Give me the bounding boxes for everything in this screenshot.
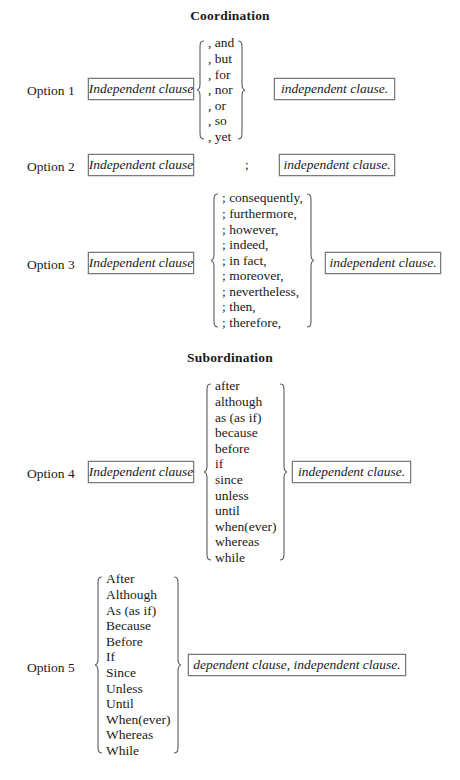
- connector-item: , nor: [208, 82, 234, 98]
- connector-item: Before: [106, 634, 170, 650]
- connector-item: ; moreover,: [222, 268, 303, 284]
- section-heading-coordination: Coordination: [0, 8, 460, 24]
- connector-item: Because: [106, 618, 170, 634]
- option-5-connector-list: After Although As (as if) Because Before…: [103, 571, 173, 758]
- option-4-connector-list: after although as (as if) because before…: [212, 378, 279, 565]
- connector-item: ; furthermore,: [222, 206, 303, 222]
- right-curly-brace-icon: [237, 40, 246, 140]
- left-curly-brace-icon: [210, 193, 219, 328]
- connector-item: Unless: [106, 681, 170, 697]
- option-3-left-clause-box: Independent clause: [88, 252, 194, 274]
- connector-item: ; therefore,: [222, 315, 303, 331]
- connector-item: ; indeed,: [222, 237, 303, 253]
- left-curly-brace-icon: [196, 40, 205, 140]
- connector-item: When(ever): [106, 712, 170, 728]
- connector-item: , or: [208, 98, 234, 114]
- option-3-right-clause-box: independent clause.: [325, 252, 441, 274]
- connector-item: whereas: [215, 534, 276, 550]
- right-curly-brace-icon: [306, 193, 315, 328]
- option-label-4: Option 4: [27, 466, 75, 482]
- option-4-right-clause-box: independent clause.: [292, 461, 411, 483]
- section-heading-subordination: Subordination: [0, 350, 460, 366]
- connector-item: as (as if): [215, 410, 276, 426]
- connector-item: until: [215, 503, 276, 519]
- connector-item: Until: [106, 696, 170, 712]
- connector-item: As (as if): [106, 603, 170, 619]
- connector-item: , but: [208, 51, 234, 67]
- option-4-left-clause-box: Independent clause: [88, 461, 194, 483]
- option-1-connector-list: , and , but , for , nor , or , so , yet: [205, 35, 237, 144]
- option-2-semicolon-connector: ;: [245, 157, 249, 173]
- worksheet-page: { "page": { "title": "Sentence Combining…: [0, 0, 460, 780]
- connector-item: although: [215, 394, 276, 410]
- connector-item: if: [215, 456, 276, 472]
- connector-item: ; nevertheless,: [222, 284, 303, 300]
- option-2-right-clause-box: independent clause.: [279, 154, 395, 176]
- connector-item: If: [106, 649, 170, 665]
- connector-item: because: [215, 425, 276, 441]
- connector-item: ; however,: [222, 222, 303, 238]
- connector-item: ; consequently,: [222, 190, 303, 206]
- option-1-right-clause-box: independent clause.: [274, 78, 395, 100]
- option-1-left-clause-box: Independent clause: [88, 78, 194, 100]
- option-3-connector-brace-group: ; consequently, ; furthermore, ; however…: [210, 193, 315, 328]
- connector-item: , yet: [208, 129, 234, 145]
- connector-item: while: [215, 550, 276, 566]
- connector-item: since: [215, 472, 276, 488]
- option-5-connector-brace-group: After Although As (as if) Because Before…: [94, 576, 182, 754]
- option-1-connector-brace-group: , and , but , for , nor , or , so , yet: [196, 40, 246, 140]
- connector-item: ; then,: [222, 299, 303, 315]
- option-label-5: Option 5: [27, 660, 75, 676]
- connector-item: Whereas: [106, 727, 170, 743]
- connector-item: , and: [208, 35, 234, 51]
- left-curly-brace-icon: [203, 383, 212, 561]
- connector-item: Although: [106, 587, 170, 603]
- left-curly-brace-icon: [94, 576, 103, 754]
- connector-item: after: [215, 378, 276, 394]
- option-label-2: Option 2: [27, 159, 75, 175]
- option-4-connector-brace-group: after although as (as if) because before…: [203, 383, 288, 561]
- right-curly-brace-icon: [173, 576, 182, 754]
- option-3-connector-list: ; consequently, ; furthermore, ; however…: [219, 190, 306, 330]
- connector-item: , so: [208, 113, 234, 129]
- connector-item: when(ever): [215, 519, 276, 535]
- connector-item: unless: [215, 488, 276, 504]
- connector-item: While: [106, 743, 170, 759]
- option-label-1: Option 1: [27, 83, 75, 99]
- option-5-right-clause-box: dependent clause, independent clause.: [188, 654, 406, 676]
- option-2-left-clause-box: Independent clause: [88, 154, 194, 176]
- connector-item: before: [215, 441, 276, 457]
- connector-item: ; in fact,: [222, 253, 303, 269]
- connector-item: After: [106, 571, 170, 587]
- option-label-3: Option 3: [27, 257, 75, 273]
- right-curly-brace-icon: [279, 383, 288, 561]
- connector-item: , for: [208, 67, 234, 83]
- connector-item: Since: [106, 665, 170, 681]
